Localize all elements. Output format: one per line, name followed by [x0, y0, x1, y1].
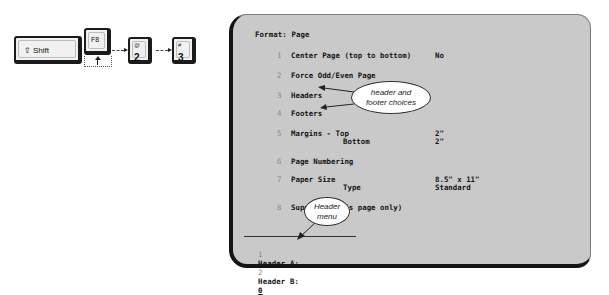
- callout-line: footer choices: [352, 98, 430, 108]
- item-number: 4: [277, 109, 281, 118]
- item-number: 6: [277, 157, 281, 166]
- key-3-char: 3: [178, 52, 184, 63]
- item-number: 8: [277, 203, 281, 212]
- header-menu-callout: Header menu: [304, 197, 350, 226]
- subitem-value: 2": [435, 137, 444, 146]
- f8-key: F8: [84, 28, 111, 55]
- item-label: Force Odd/Even Page: [291, 71, 376, 80]
- subitem-label: Bottom: [343, 137, 370, 146]
- item-number: 3: [277, 91, 281, 100]
- shift-arrow-icon: ⇧: [24, 46, 31, 55]
- right-arrow-icon: [156, 50, 168, 51]
- key-2: @ 2: [128, 37, 152, 64]
- header-b-option[interactable]: Header B:: [258, 277, 299, 286]
- shift-key-label: Shift: [33, 46, 49, 55]
- header-a-number[interactable]: 1: [258, 250, 263, 259]
- menu-subitem-margin-bottom: Bottom 2": [233, 137, 590, 147]
- shift-key: ⇧Shift: [14, 36, 82, 64]
- f8-key-label: F8: [91, 36, 99, 43]
- callout-line: Header: [305, 202, 349, 212]
- callout-line: menu: [305, 212, 349, 222]
- key-3: # 3: [172, 37, 196, 64]
- screen-title: Format: Page: [255, 30, 310, 39]
- right-arrow-icon: [112, 50, 124, 51]
- key-2-shift-char: @: [134, 42, 140, 48]
- subitem-value: Standard: [435, 183, 471, 192]
- callout-line: header and: [352, 88, 430, 98]
- header-b-number[interactable]: 2: [258, 268, 263, 277]
- item-label: Page Numbering: [291, 157, 353, 166]
- menu-item-page-numbering[interactable]: 6 Page Numbering: [233, 157, 590, 167]
- menu-subitem-paper-type: Type Standard: [233, 183, 590, 193]
- item-label: Center Page (top to bottom): [291, 51, 411, 60]
- header-menu-bar: 1 Header A; 2 Header B: 0: [249, 241, 299, 295]
- up-arrow-icon: [95, 56, 101, 60]
- key-3-shift-char: #: [178, 42, 181, 48]
- status-divider: [244, 236, 356, 237]
- menu-item-force-odd-even[interactable]: 2 Force Odd/Even Page: [233, 71, 590, 81]
- item-label: Footers: [291, 109, 322, 118]
- item-label: Headers: [291, 91, 322, 100]
- item-number: 2: [277, 71, 281, 80]
- menu-item-center-page[interactable]: 1 Center Page (top to bottom) No: [233, 51, 590, 61]
- item-number: 1: [277, 51, 281, 60]
- format-page-screen: Format: Page 1 Center Page (top to botto…: [229, 14, 591, 268]
- header-footer-callout: header and footer choices: [351, 81, 431, 114]
- menu-input-value[interactable]: 0: [258, 286, 263, 295]
- key-2-char: 2: [134, 52, 140, 63]
- header-a-option[interactable]: Header A;: [258, 259, 299, 268]
- menu-item-suppress[interactable]: 8 Suppress (this page only): [233, 203, 590, 213]
- item-value: No: [435, 51, 444, 60]
- subitem-label: Type: [343, 183, 361, 192]
